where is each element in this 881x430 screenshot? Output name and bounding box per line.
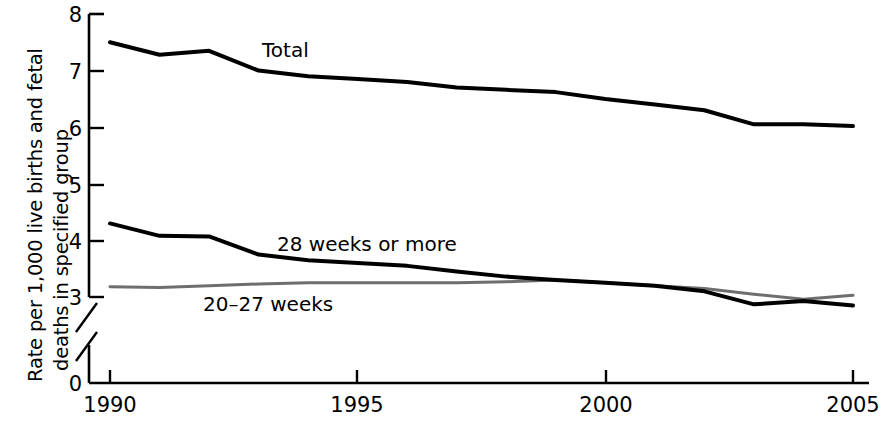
chart-figure: Rate per 1,000 live births and fetal dea… — [0, 0, 881, 430]
x-tick-label-1990: 1990 — [60, 393, 160, 417]
y-tick-marks — [89, 71, 104, 297]
y-tick-label-7: 7 — [56, 60, 82, 84]
y-tick-label-3: 3 — [56, 286, 82, 310]
x-tick-marks — [110, 370, 853, 383]
series-annotation-28-weeks-or-more: 28 weeks or more — [277, 232, 457, 256]
x-tick-label-2000: 2000 — [556, 393, 656, 417]
series-annotation-total: Total — [262, 38, 309, 62]
y-tick-label-5: 5 — [56, 174, 82, 198]
axis-break-slash-lower — [76, 332, 97, 361]
y-tick-label-6: 6 — [56, 117, 82, 141]
axis-group — [76, 14, 869, 383]
chart-plot-area — [0, 0, 881, 430]
y-tick-label-8: 8 — [56, 3, 82, 27]
series-group — [110, 42, 853, 305]
series-annotation-20-27-weeks: 20–27 weeks — [203, 292, 333, 316]
line-series-total — [110, 42, 853, 126]
x-tick-label-2005: 2005 — [803, 393, 881, 417]
y-tick-label-4: 4 — [56, 230, 82, 254]
x-tick-label-1995: 1995 — [307, 393, 407, 417]
